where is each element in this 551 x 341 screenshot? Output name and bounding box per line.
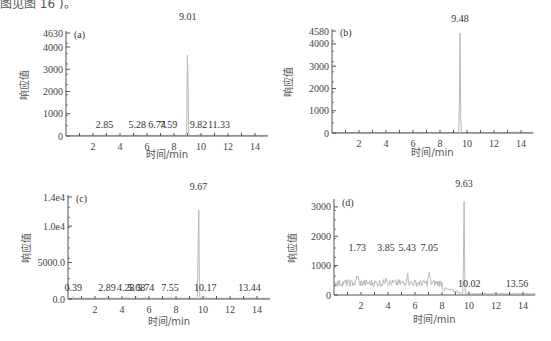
x-tick-label: 10 bbox=[198, 304, 208, 315]
chromatogram-trace bbox=[333, 33, 534, 133]
chromatogram-figure: 2468101214010002000300040004630(a)2.855.… bbox=[0, 0, 551, 341]
x-tick-label: 4 bbox=[384, 138, 389, 149]
x-tick-label: 10 bbox=[196, 141, 206, 152]
x-axis-title: 时间/min bbox=[413, 313, 455, 325]
y-tick-label: 4630 bbox=[43, 28, 63, 39]
chart-panel-c: 24681012140.05000.01.0e41.4e4(c)0.392.89… bbox=[20, 181, 270, 327]
panel-label: (d) bbox=[342, 197, 354, 209]
y-tick-label: 2000 bbox=[43, 86, 63, 97]
y-tick-label: 1.4e4 bbox=[43, 192, 65, 203]
x-tick-label: 10 bbox=[464, 300, 474, 311]
y-tick-label: 4000 bbox=[309, 38, 329, 49]
peak-label: 5.43 bbox=[399, 242, 417, 253]
x-axis-title: 时间/min bbox=[148, 315, 190, 327]
y-tick-label: 1.0e4 bbox=[43, 221, 65, 232]
x-tick-label: 12 bbox=[225, 304, 235, 315]
y-tick-label: 1000 bbox=[309, 105, 329, 116]
x-tick-label: 8 bbox=[440, 300, 445, 311]
chart-panel-a: 2468101214010002000300040004630(a)2.855.… bbox=[18, 11, 268, 160]
x-tick-label: 4 bbox=[120, 304, 125, 315]
peak-label: 5.28 bbox=[129, 119, 147, 130]
x-tick-label: 14 bbox=[252, 304, 262, 315]
peak-label: 9.67 bbox=[190, 181, 208, 192]
x-tick-label: 12 bbox=[489, 138, 499, 149]
x-tick-label: 14 bbox=[516, 138, 526, 149]
x-tick-label: 14 bbox=[518, 300, 528, 311]
x-tick-label: 14 bbox=[250, 141, 260, 152]
x-tick-label: 4 bbox=[118, 141, 123, 152]
y-tick-label: 4000 bbox=[43, 42, 63, 53]
x-tick-label: 12 bbox=[223, 141, 233, 152]
peak-label: 9.01 bbox=[179, 11, 197, 22]
peak-label: 7.55 bbox=[161, 282, 179, 293]
x-tick-label: 6 bbox=[413, 300, 418, 311]
y-tick-label: 3000 bbox=[309, 61, 329, 72]
peak-label: 9.48 bbox=[451, 13, 469, 24]
peak-label: 10.17 bbox=[194, 282, 217, 293]
x-tick-label: 8 bbox=[174, 304, 179, 315]
y-tick-label: 3000 bbox=[311, 201, 331, 212]
peak-label: 3.85 bbox=[377, 242, 395, 253]
peak-label: 7.05 bbox=[420, 242, 438, 253]
y-tick-label: 0 bbox=[326, 290, 331, 301]
y-tick-label: 3000 bbox=[43, 64, 63, 75]
peak-label: 0.39 bbox=[65, 282, 83, 293]
y-tick-label: 0 bbox=[324, 128, 329, 139]
x-tick-label: 10 bbox=[462, 138, 472, 149]
y-axis-title: 响应值 bbox=[286, 233, 298, 263]
y-tick-label: 1000 bbox=[311, 260, 331, 271]
peak-label: 10.02 bbox=[458, 278, 481, 289]
x-tick-label: 6 bbox=[147, 304, 152, 315]
peak-label: 13.56 bbox=[506, 278, 529, 289]
y-tick-label: 1000 bbox=[43, 108, 63, 119]
panel-label: (c) bbox=[76, 193, 87, 205]
peak-label: 5.74 bbox=[137, 282, 155, 293]
y-tick-label: 4580 bbox=[309, 26, 329, 37]
peak-label: 1.73 bbox=[349, 242, 367, 253]
peak-label: 13.44 bbox=[238, 282, 261, 293]
peak-label: 11.33 bbox=[208, 119, 230, 130]
y-tick-label: 2000 bbox=[311, 231, 331, 242]
panel-label: (a) bbox=[74, 29, 85, 41]
x-tick-label: 12 bbox=[491, 300, 501, 311]
x-tick-label: 2 bbox=[93, 304, 98, 315]
peak-label: 2.89 bbox=[98, 282, 116, 293]
y-axis-title: 响应值 bbox=[20, 233, 32, 263]
y-tick-label: 5000.0 bbox=[38, 257, 66, 268]
y-tick-label: 2000 bbox=[309, 83, 329, 94]
y-tick-label: 0 bbox=[58, 131, 63, 142]
y-axis-title: 响应值 bbox=[18, 70, 30, 100]
x-axis-title: 时间/min bbox=[146, 148, 188, 160]
x-tick-label: 2 bbox=[91, 141, 96, 152]
panel-label: (b) bbox=[340, 27, 352, 39]
y-axis-title: 响应值 bbox=[282, 67, 294, 97]
x-tick-label: 2 bbox=[359, 300, 364, 311]
x-tick-label: 4 bbox=[386, 300, 391, 311]
peak-label: 9.82 bbox=[190, 119, 208, 130]
x-axis-title: 时间/min bbox=[411, 146, 453, 158]
chart-panel-d: 24681012140100020003000(d)1.733.855.437.… bbox=[286, 178, 536, 325]
peak-label: 7.59 bbox=[160, 119, 178, 130]
chart-panel-b: 2468101214010002000300040004580(b)9.48响应… bbox=[282, 13, 534, 158]
peak-label: 9.63 bbox=[455, 178, 473, 189]
x-tick-label: 2 bbox=[357, 138, 362, 149]
y-tick-label: 0.0 bbox=[53, 294, 66, 305]
peak-label: 2.85 bbox=[96, 119, 114, 130]
